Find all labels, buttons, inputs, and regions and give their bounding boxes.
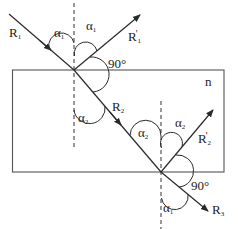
label-r1: R1 (9, 26, 21, 41)
label-refractive-index: n (205, 75, 212, 88)
label-r2-prime: R'2 (198, 131, 211, 147)
label-90-bottom: 90° (191, 179, 209, 192)
label-alpha2-top: α2 (78, 111, 88, 126)
label-r2: R2 (112, 100, 124, 115)
label-alpha1-reflected: α1 (86, 19, 96, 34)
label-alpha1-incident: α1 (54, 26, 64, 41)
label-alpha1-exit: α1 (163, 201, 173, 216)
refraction-diagram: R1 R'1 R2 R'2 R3 n α1 α1 90° α2 α2 α2 90… (0, 0, 238, 229)
label-r3: R3 (212, 203, 224, 218)
label-r1-prime: R'1 (128, 29, 141, 45)
angle-arc-90-top (90, 57, 109, 92)
angle-arc-alpha2-bottom-right (160, 132, 182, 148)
label-alpha2-bottom-right: α2 (175, 116, 185, 131)
label-90-top: 90° (108, 57, 126, 70)
label-alpha2-bottom-left: α2 (138, 126, 148, 141)
